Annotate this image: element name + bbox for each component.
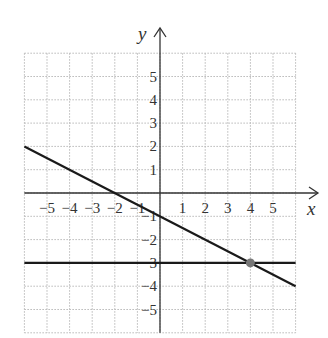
x-tick-label: 4 bbox=[247, 200, 255, 216]
axes bbox=[24, 28, 318, 333]
y-tick-label: 1 bbox=[150, 162, 158, 178]
y-tick-label: −4 bbox=[141, 278, 157, 294]
y-tick-label: −5 bbox=[141, 302, 157, 318]
y-tick-label: 3 bbox=[150, 115, 158, 131]
y-tick-label: 2 bbox=[150, 138, 158, 154]
x-tick-label: −2 bbox=[107, 200, 123, 216]
plotted-points bbox=[246, 258, 255, 267]
coordinate-plane: −5−4−3−2−11234554321−1−2−3−4−5 x y bbox=[0, 0, 328, 338]
x-tick-label: 1 bbox=[179, 200, 187, 216]
x-tick-label: 3 bbox=[224, 200, 232, 216]
x-tick-label: −5 bbox=[39, 200, 55, 216]
y-tick-label: −2 bbox=[141, 232, 157, 248]
x-tick-label: 2 bbox=[201, 200, 209, 216]
y-axis-label: y bbox=[136, 23, 147, 44]
x-axis-label: x bbox=[306, 198, 316, 219]
x-tick-label: −4 bbox=[62, 200, 78, 216]
x-tick-label: 5 bbox=[269, 200, 277, 216]
y-tick-label: 4 bbox=[150, 92, 158, 108]
intersection-point bbox=[246, 258, 255, 267]
x-tick-label: −3 bbox=[84, 200, 100, 216]
y-tick-label: 5 bbox=[150, 69, 158, 85]
